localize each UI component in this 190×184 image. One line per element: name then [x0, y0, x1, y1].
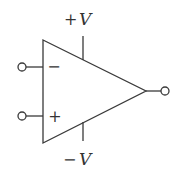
positive-supply-var: V: [79, 9, 93, 29]
negative-supply: − V: [63, 122, 93, 169]
noninverting-input-terminal: [18, 112, 26, 120]
op-amp-diagram: − + + V − V: [0, 0, 190, 184]
positive-supply-sign: +: [64, 10, 77, 29]
negative-supply-var: V: [79, 149, 93, 169]
inverting-input-sign: −: [47, 57, 60, 76]
inverting-input: −: [18, 57, 61, 76]
negative-supply-sign: −: [63, 150, 76, 169]
inverting-input-terminal: [18, 63, 26, 71]
output-terminal: [161, 87, 169, 95]
noninverting-input-sign: +: [48, 107, 61, 126]
op-amp-triangle: [43, 40, 146, 143]
output: [146, 87, 169, 95]
noninverting-input: +: [18, 107, 62, 126]
